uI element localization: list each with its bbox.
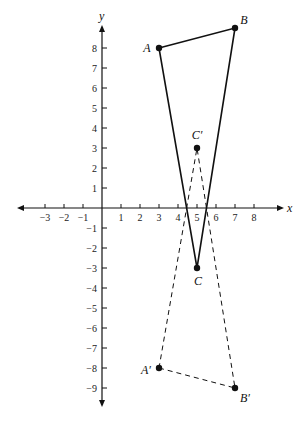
x-tick-label: −2 (59, 212, 70, 223)
y-tick-label: 8 (92, 43, 97, 54)
y-tick-label: −9 (86, 383, 97, 394)
x-tick-label: 8 (252, 212, 257, 223)
vertex-label: B′ (240, 391, 250, 405)
y-tick-label: −3 (86, 263, 97, 274)
y-tick-label: 7 (92, 63, 97, 74)
y-tick-label: 1 (92, 183, 97, 194)
y-tick-label: 3 (92, 143, 97, 154)
y-axis-bottom-arrow-icon (99, 400, 105, 407)
x-tick-label: 5 (195, 212, 200, 223)
y-axis-label: y (98, 9, 105, 23)
y-tick-label: −6 (86, 323, 97, 334)
y-tick-label: 2 (92, 163, 97, 174)
x-axis-ticks: −3−2−112345678 (40, 204, 257, 223)
y-tick-label: −7 (86, 343, 97, 354)
vertex-label: C′ (192, 128, 203, 142)
x-tick-label: 1 (119, 212, 124, 223)
y-tick-label: 4 (92, 123, 97, 134)
y-tick-label: −4 (86, 283, 97, 294)
vertex-label: B (240, 13, 248, 27)
vertex-point-icon (194, 265, 200, 271)
y-axis-ticks: 87654321−1−2−3−4−5−6−7−8−9 (86, 43, 107, 394)
x-axis-right-arrow-icon (277, 205, 284, 211)
y-tick-label: −1 (86, 223, 97, 234)
vertex-label: A (142, 41, 151, 55)
x-tick-label: −3 (40, 212, 51, 223)
y-tick-label: 6 (92, 83, 97, 94)
x-axis: x −3−2−112345678 (17, 201, 293, 223)
vertex-point-icon (232, 385, 238, 391)
x-axis-label: x (286, 201, 293, 215)
vertex-point-icon (156, 45, 162, 51)
x-tick-label: 6 (214, 212, 219, 223)
vertex-point-icon (194, 145, 200, 151)
y-tick-label: −2 (86, 243, 97, 254)
y-tick-label: 5 (92, 103, 97, 114)
y-axis-top-arrow-icon (99, 25, 105, 32)
x-tick-label: 3 (157, 212, 162, 223)
y-tick-label: −5 (86, 303, 97, 314)
coordinate-plane-diagram: x −3−2−112345678 y 87654321−1−2−3−4−5−6−… (0, 0, 302, 423)
x-tick-label: 4 (176, 212, 181, 223)
x-tick-label: 7 (233, 212, 238, 223)
vertex-label: A′ (140, 363, 151, 377)
vertex-point-icon (232, 25, 238, 31)
y-tick-label: −8 (86, 363, 97, 374)
x-tick-label: −1 (78, 212, 89, 223)
x-tick-label: 2 (138, 212, 143, 223)
vertex-label: C (194, 274, 203, 288)
x-axis-left-arrow-icon (17, 205, 24, 211)
vertex-point-icon (156, 365, 162, 371)
